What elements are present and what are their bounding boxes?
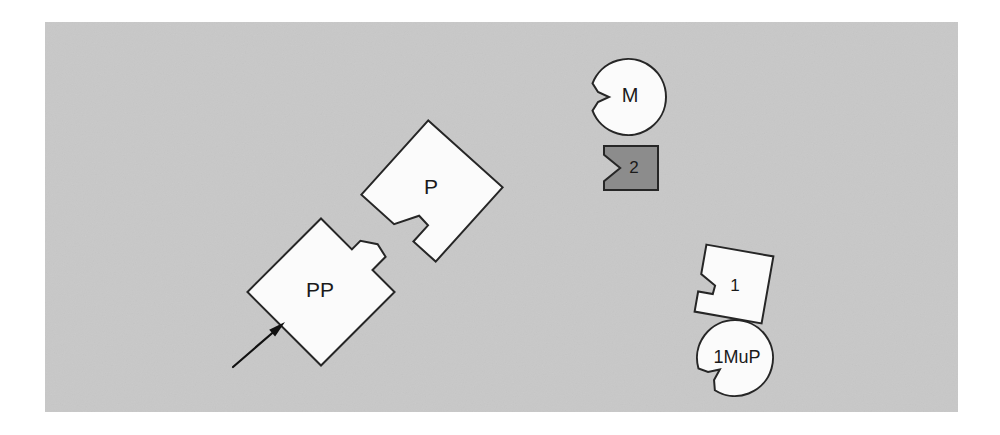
diagram-figure: M2PPP11MuP [0,0,1000,435]
diagram-panel [45,22,958,412]
diagram-canvas: M2PPP11MuP [0,0,1000,435]
